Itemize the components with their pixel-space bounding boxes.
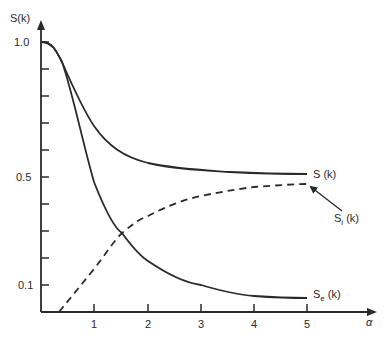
x-tick-label-2: 2 — [145, 318, 151, 330]
series-label-s: S (k) — [313, 168, 336, 180]
series-si-curve — [59, 184, 307, 312]
axes — [41, 22, 375, 312]
x-ticks — [94, 304, 307, 312]
series-label-si: Si(k) — [334, 212, 359, 227]
x-tick-label-4: 4 — [251, 318, 257, 330]
series-si-pointer-arrow — [311, 187, 342, 211]
x-tick-label-1: 1 — [91, 318, 97, 330]
series-s-curve — [41, 42, 307, 174]
x-tick-label-3: 3 — [198, 318, 204, 330]
y-tick-label-0-5: 0.5 — [16, 171, 31, 183]
x-tick-label-5: 5 — [304, 318, 310, 330]
y-ticks — [41, 42, 49, 285]
y-tick-label-1-0: 1.0 — [14, 36, 29, 48]
y-axis-title: S(k) — [10, 12, 30, 24]
series-label-se: Se(k) — [313, 288, 341, 303]
series-se-curve — [41, 42, 307, 298]
x-axis-title: α — [366, 316, 373, 328]
chart: S(k) 1.0 0.5 0.1 1 2 3 4 5 α S (k) Si(k)… — [0, 0, 389, 343]
y-tick-label-0-1: 0.1 — [18, 279, 33, 291]
